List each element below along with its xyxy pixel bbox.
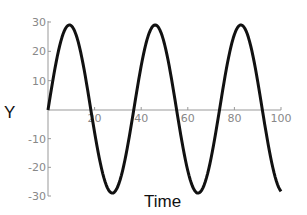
y-tick-label: -30: [28, 190, 46, 203]
x-axis-label: Time: [144, 192, 181, 211]
y-tick-label: -10: [28, 133, 46, 146]
x-tick-label: 20: [88, 112, 102, 125]
y-axis-label: Y: [4, 103, 15, 122]
data-line: [48, 25, 281, 193]
y-tick-label: -20: [28, 161, 46, 174]
x-tick-label: 40: [134, 112, 148, 125]
y-tick-label: 30: [32, 16, 46, 29]
line-chart: 20406080100-30-20-10102030 Y Time: [0, 0, 307, 215]
x-tick-label: 100: [271, 112, 292, 125]
y-tick-label: 20: [32, 45, 46, 58]
x-tick-label: 60: [181, 112, 195, 125]
x-tick-label: 80: [227, 112, 241, 125]
y-tick-label: 10: [32, 75, 46, 88]
